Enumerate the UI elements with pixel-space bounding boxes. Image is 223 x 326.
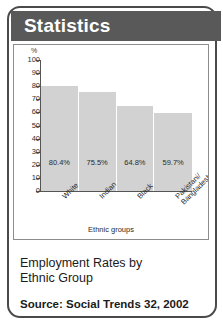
y-axis-tick: 90 (14, 69, 40, 76)
caption-line-1: Employment Rates by (20, 256, 200, 271)
bar-value-label: 75.5% (79, 158, 116, 167)
bar: 64.8% (117, 106, 155, 191)
y-axis-tick-label: 10 (20, 174, 40, 181)
y-axis-tick-label: 100 (20, 56, 40, 63)
bar-value-label: 64.8% (117, 158, 154, 167)
y-axis-tick: 10 (14, 174, 40, 181)
bar-value-label: 80.4% (41, 158, 78, 167)
y-axis-tick: 30 (14, 148, 40, 155)
y-axis-tick: 20 (14, 161, 40, 168)
source-note: Source: Social Trends 32, 2002 (20, 298, 205, 310)
caption-line-2: Ethnic Group (20, 271, 200, 286)
y-axis-tick: 0 (14, 187, 40, 194)
bar-value-label: 59.7% (154, 158, 192, 167)
y-axis-unit-label: % (31, 47, 37, 54)
y-axis-tick: 60 (14, 108, 40, 115)
y-axis-tick-label: 0 (20, 187, 40, 194)
y-axis-tick-label: 50 (20, 122, 40, 129)
y-axis-tick-label: 30 (20, 148, 40, 155)
y-axis-tick-label: 90 (20, 69, 40, 76)
y-axis-tick-label: 40 (20, 135, 40, 142)
page-title: Statistics (24, 15, 110, 37)
y-axis-tick: 40 (14, 135, 40, 142)
y-axis-tick-label: 80 (20, 82, 40, 89)
header-bar: Statistics (11, 11, 221, 41)
y-axis-tick-label: 20 (20, 161, 40, 168)
y-axis-tick: 100 (14, 56, 40, 63)
y-axis-tick-label: 70 (20, 95, 40, 102)
chart-caption: Employment Rates by Ethnic Group (20, 256, 200, 286)
y-axis-tick-label: 60 (20, 108, 40, 115)
statistics-card: Statistics % 1009080706050403020100 80.4… (0, 0, 223, 326)
chart-panel: % 1009080706050403020100 80.4%75.5%64.8%… (13, 44, 209, 240)
y-axis-tick: 50 (14, 122, 40, 129)
bar: 75.5% (79, 92, 117, 191)
bar: 80.4% (41, 86, 79, 191)
plot-area: 80.4%75.5%64.8%59.7% (41, 60, 192, 191)
x-axis-title: Ethnic groups (14, 225, 208, 234)
y-axis-tick: 70 (14, 95, 40, 102)
y-axis-tick: 80 (14, 82, 40, 89)
